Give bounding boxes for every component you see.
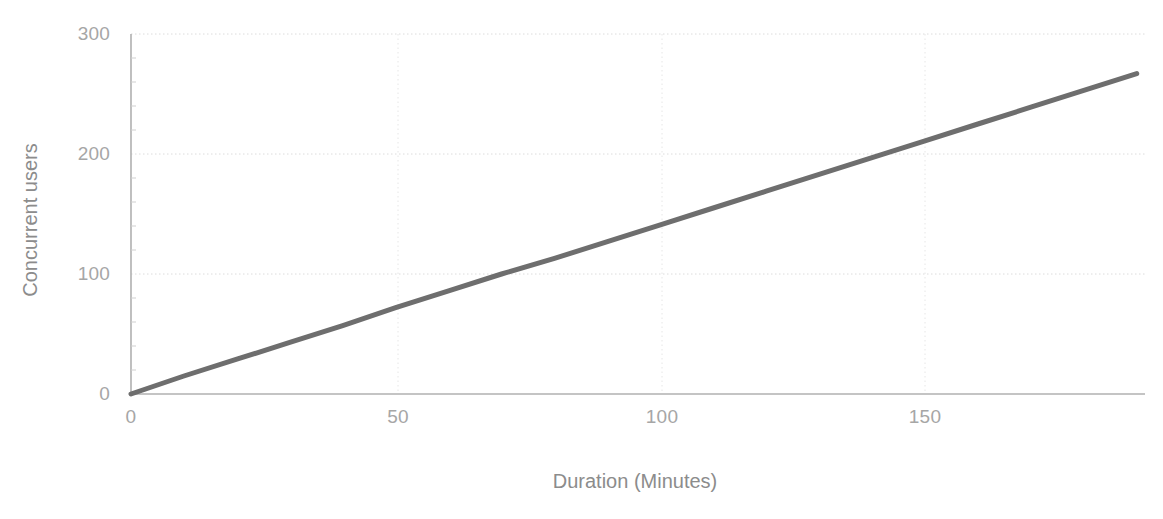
y-tick-label-200: 200 [60,143,110,165]
chart-plot-area [0,0,1163,519]
x-tick-label-100: 100 [646,406,678,428]
chart-figure: 300 200 100 0 0 50 100 150 Duration (Min… [0,0,1163,519]
x-axis-title: Duration (Minutes) [553,470,718,493]
y-tick-label-0: 0 [60,383,110,405]
x-tick-label-150: 150 [909,406,941,428]
y-axis-title: Concurrent users [19,143,42,296]
y-tick-label-100: 100 [60,263,110,285]
data-line-concurrent-users [131,74,1137,394]
gridlines [131,34,1145,274]
x-gridlines [398,34,925,394]
x-tick-label-0: 0 [126,406,137,428]
x-tick-label-50: 50 [387,406,409,428]
y-tick-label-300: 300 [60,23,110,45]
